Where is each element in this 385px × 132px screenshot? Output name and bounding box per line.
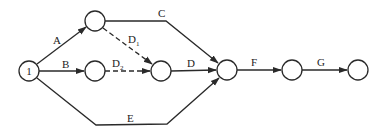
label-a: A (53, 34, 61, 46)
label-d1: D1 (128, 33, 140, 48)
label-d2: D2 (112, 57, 124, 72)
node-2 (85, 11, 105, 31)
node-1: 1 (19, 61, 39, 81)
node-1-label: 1 (26, 65, 32, 77)
label-g: G (317, 56, 325, 68)
node-3 (85, 61, 105, 81)
network-diagram: 1 A B C D1 D2 D E F G (0, 0, 385, 132)
label-f: F (251, 56, 257, 68)
node-7 (348, 60, 368, 80)
node-6 (282, 60, 302, 80)
activity-c-path (105, 21, 218, 63)
node-5 (217, 60, 237, 80)
label-b: B (62, 58, 69, 70)
label-c: C (158, 7, 165, 19)
label-d: D (187, 57, 195, 69)
node-4 (151, 61, 171, 81)
activity-d-arrow (171, 70, 216, 71)
label-e: E (127, 112, 134, 124)
